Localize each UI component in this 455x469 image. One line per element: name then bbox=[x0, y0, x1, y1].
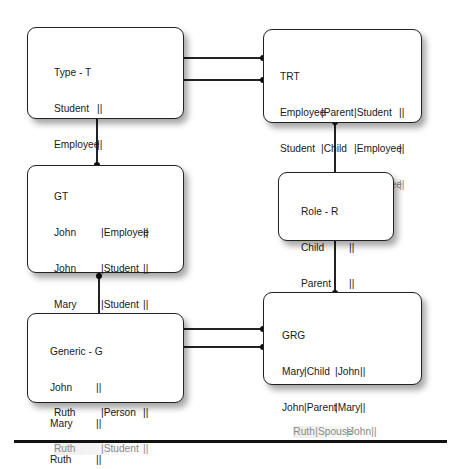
table-row: Child|| bbox=[301, 242, 354, 254]
table-title: GRG bbox=[282, 330, 375, 342]
table-title: Generic - G bbox=[50, 346, 103, 358]
table-type-t: Type - T Student|| Employee|| Person|| bbox=[27, 27, 184, 119]
connector-type-trt-1 bbox=[183, 57, 264, 59]
connector-generic-grg-2 bbox=[183, 346, 264, 348]
table-row: John|Employee|| bbox=[54, 227, 148, 239]
table-row: Ruth|| bbox=[50, 454, 103, 466]
table-role-r: Role - R Child|| Parent|| Spouse|| bbox=[278, 172, 394, 241]
table-row: Ruth|Spouse|John|| bbox=[293, 426, 375, 438]
table-row: John|Student|| bbox=[54, 263, 148, 275]
table-row: Employee|Parent|Student|| bbox=[280, 107, 404, 119]
table-row: Mary|| bbox=[50, 418, 103, 430]
table-row: Parent|| bbox=[301, 278, 354, 290]
table-grg: GRG Mary|Child|John|| John|Parent|Mary||… bbox=[263, 292, 422, 385]
connector-generic-grg-1 bbox=[183, 328, 264, 330]
table-title: TRT bbox=[280, 71, 404, 83]
table-row: Student|| bbox=[54, 103, 102, 115]
table-gt: GT John|Employee|| John|Student|| Mary|S… bbox=[27, 165, 184, 273]
table-title: Role - R bbox=[301, 206, 354, 218]
table-row: Mary|Student|| bbox=[54, 299, 148, 311]
table-title: GT bbox=[54, 191, 148, 203]
table-row: Mary|Child|John|| bbox=[282, 366, 375, 378]
table-generic-g: Generic - G John|| Mary|| Ruth|| bbox=[27, 313, 184, 403]
table-title: Type - T bbox=[54, 67, 102, 79]
table-row: John|| bbox=[50, 382, 103, 394]
bottom-rule-divider bbox=[14, 440, 447, 443]
table-trt: TRT Employee|Parent|Student|| Student|Ch… bbox=[263, 29, 422, 123]
connector-type-trt-2 bbox=[183, 79, 264, 81]
table-row: John|Parent|Mary|| bbox=[282, 402, 375, 414]
table-row: Employee|| bbox=[54, 139, 102, 151]
table-row: Student|Child|Employee|| bbox=[280, 143, 404, 155]
